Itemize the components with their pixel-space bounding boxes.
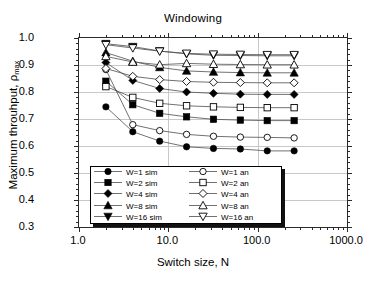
data-point	[130, 121, 136, 127]
data-point	[209, 89, 217, 97]
x-axis-minor-tick	[343, 227, 344, 230]
y-axis-title-text: Maximum throuhput, ρ	[7, 75, 19, 190]
y-axis-minor-tick	[347, 135, 350, 136]
x-axis-minor-tick	[211, 227, 212, 230]
x-axis-tick-label: 1000.0	[316, 234, 376, 246]
data-point	[236, 79, 244, 87]
x-axis-minor-tick	[155, 227, 156, 230]
y-axis-tick	[347, 38, 352, 39]
x-axis-tick-label: 10.0	[137, 234, 197, 246]
y-axis-minor-tick	[76, 184, 79, 185]
data-point	[237, 104, 243, 110]
y-axis-minor-tick	[76, 178, 79, 179]
y-axis-minor-tick	[76, 130, 79, 131]
y-axis-minor-tick	[347, 87, 350, 88]
data-point	[156, 138, 162, 144]
x-axis-minor-tick	[249, 227, 250, 230]
x-axis-tick	[258, 227, 259, 232]
x-axis-tick	[79, 227, 80, 232]
x-axis-minor-tick	[149, 227, 150, 230]
legend-label: W=1 an	[219, 167, 281, 178]
x-axis-minor-tick	[164, 35, 165, 38]
x-axis-minor-tick	[160, 35, 161, 38]
x-axis-minor-tick	[333, 35, 334, 38]
x-axis-tick	[79, 33, 80, 38]
x-axis-title: Switch size, N	[0, 256, 386, 268]
data-point	[210, 116, 216, 122]
y-axis-tick	[74, 38, 79, 39]
y-axis-minor-tick	[76, 43, 79, 44]
y-axis-tick	[347, 146, 352, 147]
x-axis-minor-tick	[244, 227, 245, 230]
legend-label: W=1 sim	[124, 167, 186, 178]
chart-figure: Windowing 0.30.40.50.60.70.80.91.01.010.…	[0, 0, 386, 287]
legend-row: W=8 simW=8 an	[91, 201, 281, 212]
data-point	[291, 135, 297, 141]
legend-symbol	[186, 201, 219, 212]
y-axis-minor-tick	[76, 97, 79, 98]
x-axis-minor-tick	[312, 227, 313, 230]
y-axis-minor-tick	[76, 108, 79, 109]
legend-symbol	[186, 189, 219, 200]
legend-symbol	[186, 212, 219, 223]
legend-symbol	[186, 178, 219, 189]
y-axis-minor-tick	[76, 135, 79, 136]
data-point	[236, 90, 244, 98]
x-axis-tick	[168, 33, 169, 38]
data-point	[156, 84, 164, 92]
y-axis-minor-tick	[76, 124, 79, 125]
y-axis-minor-tick	[347, 205, 350, 206]
y-axis-minor-tick	[347, 60, 350, 61]
y-axis-tick	[347, 173, 352, 174]
chart-title: Windowing	[0, 12, 386, 24]
y-axis-title: Maximum throuhput, ρmax	[7, 15, 21, 235]
y-axis-minor-tick	[347, 157, 350, 158]
data-point	[264, 148, 270, 154]
y-axis-minor-tick	[76, 222, 79, 223]
data-point	[209, 78, 217, 86]
x-axis-minor-tick	[320, 35, 321, 38]
data-point	[264, 117, 270, 123]
x-axis-minor-tick	[106, 227, 107, 230]
x-axis-minor-tick	[195, 227, 196, 230]
data-point	[183, 131, 189, 137]
y-axis-minor-tick	[347, 222, 350, 223]
x-axis-minor-tick	[106, 35, 107, 38]
y-axis-tick	[347, 200, 352, 201]
x-axis-minor-tick	[141, 35, 142, 38]
x-axis-minor-tick	[300, 227, 301, 230]
y-axis-tick	[74, 146, 79, 147]
y-axis-minor-tick	[347, 168, 350, 169]
y-axis-minor-tick	[76, 162, 79, 163]
x-axis-minor-tick	[300, 35, 301, 38]
legend-row: W=1 simW=1 an	[91, 167, 281, 178]
y-axis-minor-tick	[347, 108, 350, 109]
x-axis-minor-tick	[338, 35, 339, 38]
data-point	[156, 76, 164, 84]
y-axis-minor-tick	[347, 81, 350, 82]
x-axis-minor-tick	[231, 35, 232, 38]
data-point	[210, 133, 216, 139]
y-axis-tick	[347, 65, 352, 66]
y-axis-minor-tick	[347, 54, 350, 55]
y-axis-minor-tick	[76, 81, 79, 82]
data-point	[264, 104, 270, 110]
y-axis-title-subscript: max	[12, 61, 21, 75]
x-axis-minor-tick	[195, 35, 196, 38]
y-axis-minor-tick	[76, 141, 79, 142]
legend-label: W=16 sim	[124, 212, 186, 223]
y-axis-minor-tick	[76, 49, 79, 50]
y-axis-minor-tick	[76, 151, 79, 152]
y-axis-minor-tick	[347, 70, 350, 71]
legend-table: W=1 simW=1 anW=2 simW=2 anW=4 simW=4 anW…	[91, 167, 281, 223]
legend-label: W=4 sim	[124, 189, 186, 200]
y-axis-minor-tick	[347, 130, 350, 131]
data-point	[182, 59, 190, 66]
x-axis-minor-tick	[211, 35, 212, 38]
y-axis-minor-tick	[347, 184, 350, 185]
data-point	[103, 83, 109, 89]
y-axis-tick	[347, 92, 352, 93]
x-axis-minor-tick	[222, 227, 223, 230]
legend-row: W=4 simW=4 an	[91, 189, 281, 200]
x-axis-minor-tick	[141, 227, 142, 230]
